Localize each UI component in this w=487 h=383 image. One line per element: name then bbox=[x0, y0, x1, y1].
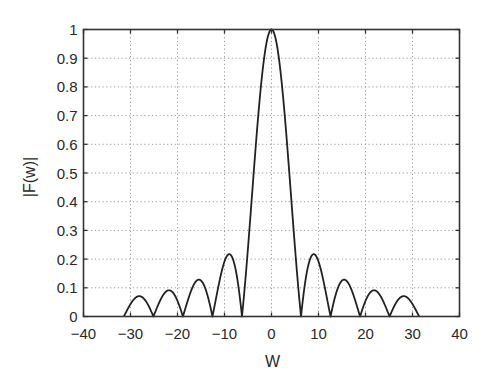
x-tick-label: 30 bbox=[404, 325, 421, 342]
y-tick-label: 0.5 bbox=[57, 165, 78, 182]
y-tick-label: 0.2 bbox=[57, 251, 78, 268]
x-tick-label: −40 bbox=[71, 325, 96, 342]
x-tick-label: −20 bbox=[165, 325, 190, 342]
x-tick-label: 40 bbox=[451, 325, 468, 342]
x-axis-label: W bbox=[265, 353, 281, 370]
y-tick-label: 0 bbox=[69, 308, 77, 325]
y-axis-label: |F(w)| bbox=[21, 157, 38, 197]
x-tick-label: 20 bbox=[357, 325, 374, 342]
y-tick-label: 0.3 bbox=[57, 222, 78, 239]
x-tick-label: −30 bbox=[118, 325, 143, 342]
x-tick-label: −10 bbox=[212, 325, 237, 342]
x-tick-label: 10 bbox=[310, 325, 327, 342]
chart: −40−30−20−10010203040 00.10.20.30.40.50.… bbox=[0, 0, 487, 383]
y-tick-label: 0.4 bbox=[57, 193, 78, 210]
y-tick-label: 0.7 bbox=[57, 107, 78, 124]
x-tick-labels: −40−30−20−10010203040 bbox=[71, 325, 468, 342]
y-tick-label: 1 bbox=[69, 21, 77, 38]
y-tick-label: 0.8 bbox=[57, 78, 78, 95]
grid-lines bbox=[84, 30, 460, 317]
y-tick-label: 0.6 bbox=[57, 136, 78, 153]
y-tick-label: 0.1 bbox=[57, 279, 78, 296]
x-tick-label: 0 bbox=[267, 325, 275, 342]
y-tick-labels: 00.10.20.30.40.50.60.70.80.91 bbox=[57, 21, 78, 325]
y-tick-label: 0.9 bbox=[57, 50, 78, 67]
